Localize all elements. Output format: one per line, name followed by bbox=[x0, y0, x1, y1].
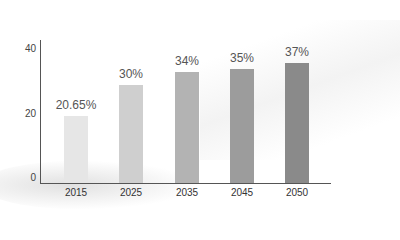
bar bbox=[230, 69, 254, 183]
y-tick-label: 20 bbox=[22, 108, 36, 119]
bar-value-label: 37% bbox=[267, 45, 327, 59]
x-tick-label: 2025 bbox=[111, 187, 151, 198]
x-axis bbox=[40, 183, 331, 184]
bar-value-label: 20.65% bbox=[46, 98, 106, 112]
x-tick-label: 2045 bbox=[222, 187, 262, 198]
bar-value-label: 34% bbox=[157, 54, 217, 68]
x-tick-label: 2050 bbox=[277, 187, 317, 198]
y-axis bbox=[40, 40, 41, 183]
background-decoration bbox=[0, 160, 200, 210]
bar-value-label: 30% bbox=[101, 67, 161, 81]
bar bbox=[64, 116, 88, 183]
bar bbox=[285, 63, 309, 183]
bar-value-label: 35% bbox=[212, 51, 272, 65]
bar bbox=[175, 72, 199, 183]
bar bbox=[119, 85, 143, 183]
y-tick-label: 40 bbox=[22, 43, 36, 54]
x-tick-label: 2015 bbox=[56, 187, 96, 198]
x-tick-label: 2035 bbox=[167, 187, 207, 198]
y-tick-label: 0 bbox=[22, 172, 36, 183]
